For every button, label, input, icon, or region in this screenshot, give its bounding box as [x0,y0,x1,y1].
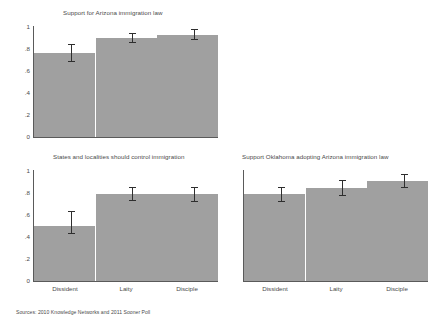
xtick-label-bl-disciple: Disciple [164,285,210,292]
ytick-label-bl-0: 0 [18,277,30,284]
bar-br-laity [306,188,367,281]
xtick-label-br-dissident: Dissident [252,285,298,292]
error-line [132,187,133,202]
panel-title-bottom-left: States and localities should control imm… [53,153,184,160]
error-line [194,187,195,203]
error-line [71,211,72,234]
error-cap-lower [401,187,408,188]
ytick-label-bl-1: 1 [18,167,30,174]
error-bar-br-dissident [274,187,288,203]
plot-area-bottom-left [34,170,218,281]
xtick-label-br-disciple: Disciple [374,285,420,292]
error-bar-bl-dissident [64,211,78,234]
error-bar-bl-laity [126,187,140,202]
x-axis-line-bl [33,281,218,282]
panel-states-localities-control: States and localities should control imm… [0,150,222,306]
error-line [71,44,72,62]
error-cap-lower [68,61,75,62]
panel-support-arizona: Support for Arizona immigration law 1 .8… [0,0,431,150]
error-cap-lower [191,39,198,40]
error-cap-lower [68,233,75,234]
ytick-label-top-1: 1 [18,23,30,30]
error-line [404,174,405,187]
error-bar-br-laity [336,180,350,196]
error-cap-lower [129,200,136,201]
xtick-label-bl-laity: Laity [103,285,149,292]
ytick-label-top-06: .6 [18,67,30,74]
error-bar-top-laity [126,33,140,43]
error-cap-lower [129,42,136,43]
xtick-label-br-laity: Laity [313,285,359,292]
ytick-label-bl-06: .6 [18,211,30,218]
xtick-label-bl-dissident: Dissident [42,285,88,292]
error-bar-top-dissident [64,44,78,62]
error-line [342,180,343,196]
ytick-label-top-0: 0 [18,133,30,140]
error-bar-bl-disciple [187,187,201,203]
ytick-label-top-02: .2 [18,111,30,118]
error-bar-top-disciple [187,29,201,40]
ytick-label-bl-04: .4 [18,233,30,240]
plot-area-bottom-right [244,170,428,281]
panel-title-top: Support for Arizona immigration law [63,9,162,16]
figure-panel-chart: Support for Arizona immigration law 1 .8… [0,0,431,326]
source-note: Sources: 2010 Knowledge Networks and 201… [16,309,150,315]
panel-title-bottom-right: Support Oklahoma adopting Arizona immigr… [242,153,389,160]
error-cap-lower [339,195,346,196]
panel-oklahoma-adopting: Support Oklahoma adopting Arizona immigr… [222,150,431,306]
error-bar-br-disciple [397,174,411,187]
bar-top-disciple [157,35,218,137]
ytick-label-bl-08: .8 [18,189,30,196]
bar-br-disciple [367,181,428,281]
error-cap-lower [278,201,285,202]
ytick-label-bl-02: .2 [18,255,30,262]
bar-bl-laity [96,194,157,281]
x-axis-line-top [33,137,218,138]
error-line [281,187,282,203]
ytick-label-top-04: .4 [18,89,30,96]
x-axis-line-br [243,281,428,282]
error-cap-lower [191,201,198,202]
plot-area-top [34,26,218,137]
bar-br-dissident [244,194,305,281]
bar-top-dissident [34,53,95,137]
ytick-label-top-08: .8 [18,45,30,52]
bar-top-laity [96,38,157,137]
bar-bl-disciple [157,194,218,281]
